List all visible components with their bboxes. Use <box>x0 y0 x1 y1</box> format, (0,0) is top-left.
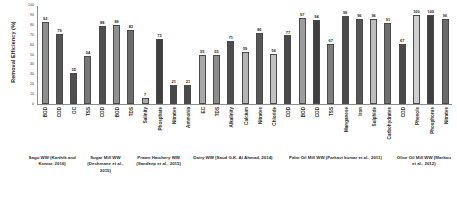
bar-value-label: 35 <box>72 68 76 72</box>
bar-slot: 7 <box>138 6 152 104</box>
category-slot: Sulphide <box>367 106 381 152</box>
bar-slot: 80 <box>252 6 266 104</box>
category-slot: Carbohydrates <box>382 106 396 152</box>
group-caption-label: Palm Oil Mill WW (Parkavi kumar et al., … <box>277 155 394 207</box>
bar <box>170 85 177 104</box>
y-axis-tick-60: 60 <box>30 44 34 48</box>
bar-slot: 88 <box>95 6 109 104</box>
category-slot: COD <box>95 106 109 152</box>
bar-value-label: 54 <box>86 51 90 55</box>
bar-value-label: 67 <box>329 39 333 43</box>
y-axis-tick-40: 40 <box>30 64 34 68</box>
bar-series: 9279355488898377321215555715980567797946… <box>38 6 452 104</box>
category-slot: Chloride <box>267 106 281 152</box>
bar-value-label: 83 <box>129 25 133 29</box>
bar-slot: 91 <box>381 6 395 104</box>
category-label: Ammonia <box>186 107 191 128</box>
bar-slot: 55 <box>209 6 223 104</box>
group-caption-label: Prawn Hatchery WW (Sandeep et al., 2015) <box>128 155 188 207</box>
category-label: Sulphide <box>372 107 377 126</box>
category-slot: OC <box>67 106 81 152</box>
category-label: Calcium <box>243 107 248 125</box>
bar-slot: 67 <box>395 6 409 104</box>
y-axis-tick-80: 80 <box>30 24 34 28</box>
bar-value-label: 96 <box>357 14 361 18</box>
bar <box>213 55 220 104</box>
category-label: Salinity <box>143 107 148 123</box>
y-axis-title: Removal Efficiency (%) <box>6 0 20 104</box>
bar-value-label: 100 <box>427 10 434 14</box>
category-slot: Phenols <box>410 106 424 152</box>
bar-value-label: 21 <box>172 80 176 84</box>
category-label: Nitrates <box>257 107 262 124</box>
bar-slot: 71 <box>224 6 238 104</box>
bar-slot: 92 <box>38 6 52 104</box>
category-label: Carbohydrates <box>386 107 391 139</box>
bar-slot: 67 <box>324 6 338 104</box>
bar-slot: 77 <box>281 6 295 104</box>
y-axis-tick-10: 10 <box>30 93 34 97</box>
bar <box>142 98 149 104</box>
bar-slot: 96 <box>352 6 366 104</box>
bar <box>56 34 63 104</box>
bar-slot: 96 <box>438 6 452 104</box>
category-label: Phosphorus <box>429 107 434 134</box>
bar-slot: 99 <box>338 6 352 104</box>
bar-slot: 35 <box>67 6 81 104</box>
bar-value-label: 92 <box>43 17 47 21</box>
bar-slot: 54 <box>81 6 95 104</box>
category-label: TDS <box>129 107 134 116</box>
bar-value-label: 96 <box>443 14 447 18</box>
bar-slot: 96 <box>366 6 380 104</box>
category-slot: TSS <box>324 106 338 152</box>
bar-value-label: 55 <box>200 50 204 54</box>
category-label: COD <box>315 107 320 117</box>
bar <box>427 15 434 104</box>
category-label: Iron <box>358 107 363 116</box>
category-slot: Salinity <box>138 106 152 152</box>
y-axis-tick-labels: 0102030405060708090100 <box>25 6 36 105</box>
bar-slot: 79 <box>52 6 66 104</box>
x-axis-category-labels: BODCODOCTSSCODBODTDSSalinityPhosphateNit… <box>38 106 453 152</box>
bar <box>199 55 206 104</box>
category-slot: Phosphate <box>153 106 167 152</box>
category-label: BOD <box>43 107 48 117</box>
bar <box>156 39 163 104</box>
bar-value-label: 21 <box>186 80 190 84</box>
bar-value-label: 73 <box>157 34 161 38</box>
category-slot: BOD <box>296 106 310 152</box>
bar <box>442 19 449 104</box>
bar-value-label: 77 <box>286 31 290 35</box>
bar-value-label: 89 <box>114 20 118 24</box>
category-label: Phenols <box>415 107 420 125</box>
category-label: Alkalinity <box>229 107 234 127</box>
category-slot: Manganese <box>339 106 353 152</box>
bar <box>384 23 391 104</box>
bar <box>127 30 134 104</box>
category-label: Nitrates <box>171 107 176 124</box>
bar-slot: 56 <box>267 6 281 104</box>
bar-slot: 21 <box>167 6 181 104</box>
category-slot: Nitrates <box>439 106 453 152</box>
category-slot: COD <box>281 106 295 152</box>
category-label: COD <box>400 107 405 117</box>
bar-value-label: 79 <box>57 29 61 33</box>
bar-value-label: 7 <box>144 93 146 97</box>
y-axis-tick-90: 90 <box>30 14 34 18</box>
category-slot: Ammonia <box>181 106 195 152</box>
bar-slot: 59 <box>238 6 252 104</box>
category-slot: BOD <box>110 106 124 152</box>
category-label: BOD <box>114 107 119 117</box>
category-slot: COD <box>52 106 66 152</box>
category-label: TDS <box>214 107 219 116</box>
bar-value-label: 55 <box>214 50 218 54</box>
bar-value-label: 71 <box>229 36 233 40</box>
bar <box>399 44 406 104</box>
bar <box>227 41 234 104</box>
bar-slot: 89 <box>109 6 123 104</box>
category-label: COD <box>100 107 105 117</box>
category-label: Manganese <box>343 107 348 132</box>
category-slot: TDS <box>124 106 138 152</box>
bar-value-label: 94 <box>314 15 318 19</box>
bar <box>70 73 77 104</box>
